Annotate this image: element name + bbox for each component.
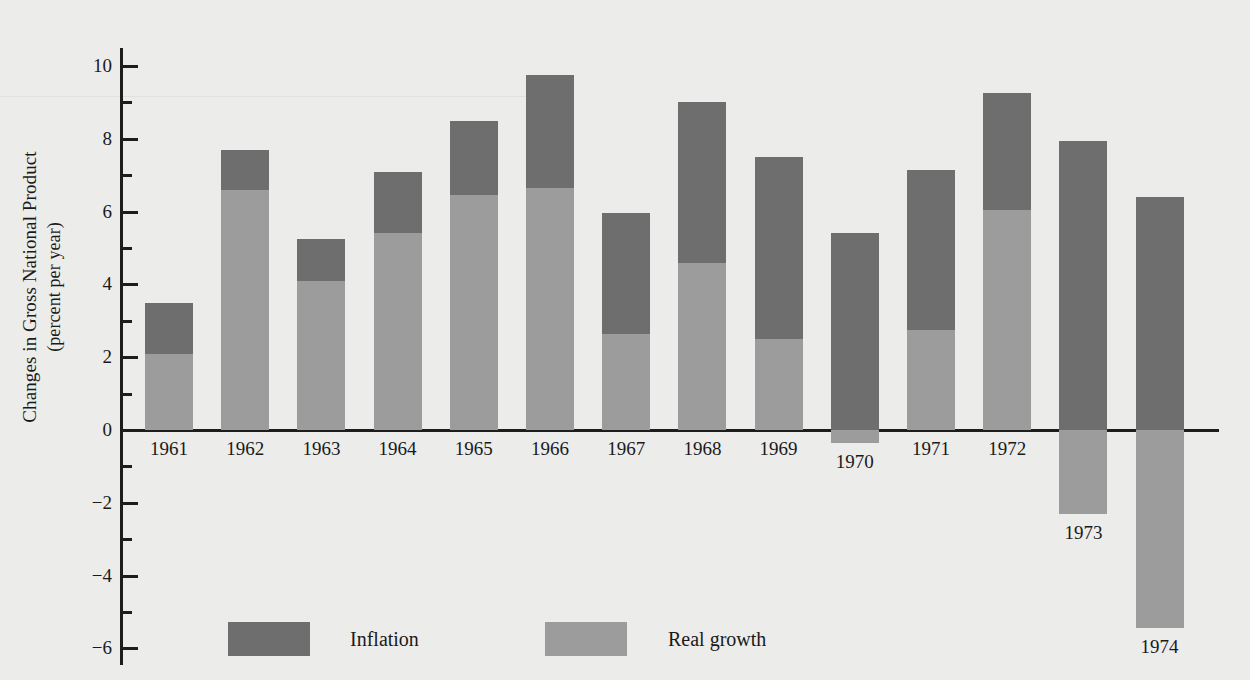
y-tick-label-wrap: −6 — [76, 638, 112, 657]
y-tick-minor — [123, 465, 132, 468]
y-tick-label: 8 — [80, 129, 112, 148]
y-tick-major — [123, 138, 138, 141]
y-tick-major — [123, 429, 138, 432]
x-axis-label-1971: 1971 — [891, 439, 971, 459]
y-tick-label-wrap: 8 — [76, 129, 112, 148]
bar-segment-inflation — [678, 102, 726, 262]
bar-1971 — [907, 0, 955, 680]
bar-segment-real-growth — [297, 281, 345, 430]
bar-segment-real-growth — [602, 334, 650, 430]
bar-segment-real-growth — [221, 190, 269, 430]
bar-1964 — [374, 0, 422, 680]
bar-1973 — [1059, 0, 1107, 680]
bar-segment-real-growth — [145, 354, 193, 430]
bar-segment-inflation — [907, 170, 955, 330]
bar-segment-real-growth — [983, 210, 1031, 430]
y-tick-minor — [123, 320, 132, 323]
y-tick-minor — [123, 101, 132, 104]
zero-baseline — [120, 429, 1219, 432]
y-tick-minor — [123, 611, 132, 614]
bar-segment-inflation — [221, 150, 269, 190]
x-axis-label-1973: 1973 — [1043, 523, 1123, 543]
y-tick-minor — [123, 538, 132, 541]
y-tick-major — [123, 647, 138, 650]
legend-swatch-inflation — [228, 622, 310, 656]
legend-label-real-growth: Real growth — [668, 628, 766, 650]
y-tick-label-wrap: 10 — [76, 56, 112, 75]
y-tick-label-wrap: 6 — [76, 202, 112, 221]
bar-1968 — [678, 0, 726, 680]
bar-1969 — [755, 0, 803, 680]
bar-segment-inflation — [602, 213, 650, 333]
x-axis-label-1964: 1964 — [358, 439, 438, 459]
y-tick-minor — [123, 247, 132, 250]
bar-segment-inflation — [1136, 197, 1184, 430]
x-axis-label-1972: 1972 — [967, 439, 1047, 459]
bar-segment-real-growth — [1136, 430, 1184, 628]
bar-segment-real-growth — [755, 339, 803, 430]
bar-segment-real-growth — [450, 195, 498, 430]
y-tick-major — [123, 65, 138, 68]
x-axis-label-1966: 1966 — [510, 439, 590, 459]
y-tick-label-wrap: −2 — [76, 493, 112, 512]
y-tick-label: −4 — [80, 566, 112, 585]
bar-1965 — [450, 0, 498, 680]
bar-1963 — [297, 0, 345, 680]
bar-1967 — [602, 0, 650, 680]
plot-area: 1086420−2−4−6 19611962196319641965196619… — [0, 0, 1250, 680]
y-tick-label: 0 — [80, 420, 112, 439]
bar-1966 — [526, 0, 574, 680]
x-axis-label-1963: 1963 — [281, 439, 361, 459]
legend-swatch-real-growth — [545, 622, 627, 656]
bar-1961 — [145, 0, 193, 680]
y-tick-label: 4 — [80, 274, 112, 293]
y-tick-label: 6 — [80, 202, 112, 221]
bar-segment-inflation — [1059, 141, 1107, 430]
x-axis-label-1970: 1970 — [815, 452, 895, 472]
bar-segment-real-growth — [526, 188, 574, 430]
bar-segment-real-growth — [1059, 430, 1107, 514]
x-axis-label-1961: 1961 — [129, 439, 209, 459]
y-tick-major — [123, 283, 138, 286]
x-axis-label-1962: 1962 — [205, 439, 285, 459]
bar-segment-inflation — [526, 75, 574, 188]
y-tick-minor — [123, 393, 132, 396]
y-tick-label-wrap: 2 — [76, 347, 112, 366]
y-tick-label: 10 — [80, 56, 112, 75]
bar-segment-inflation — [450, 121, 498, 196]
x-axis-label-1967: 1967 — [586, 439, 666, 459]
y-tick-label: −2 — [80, 493, 112, 512]
bar-segment-inflation — [374, 172, 422, 234]
x-axis-label-1965: 1965 — [434, 439, 514, 459]
chart-canvas: Changes in Gross National Product (perce… — [0, 0, 1250, 680]
y-tick-label-wrap: 4 — [76, 274, 112, 293]
legend-label-inflation: Inflation — [350, 628, 419, 650]
y-tick-label-wrap: −4 — [76, 566, 112, 585]
bar-1962 — [221, 0, 269, 680]
y-tick-major — [123, 211, 138, 214]
bar-segment-inflation — [983, 93, 1031, 209]
x-axis-label-1968: 1968 — [662, 439, 742, 459]
y-tick-major — [123, 356, 138, 359]
bar-segment-real-growth — [907, 330, 955, 430]
bar-segment-real-growth — [374, 233, 422, 430]
bar-segment-inflation — [755, 157, 803, 339]
y-tick-minor — [123, 174, 132, 177]
bar-segment-inflation — [145, 303, 193, 354]
bar-1974 — [1136, 0, 1184, 680]
x-axis-label-1969: 1969 — [739, 439, 819, 459]
bar-1970 — [831, 0, 879, 680]
bar-1972 — [983, 0, 1031, 680]
y-tick-label: −6 — [80, 638, 112, 657]
bar-segment-real-growth — [831, 430, 879, 443]
y-tick-label: 2 — [80, 347, 112, 366]
y-tick-major — [123, 502, 138, 505]
bar-segment-inflation — [831, 233, 879, 430]
bar-segment-real-growth — [678, 263, 726, 430]
bar-segment-inflation — [297, 239, 345, 281]
x-axis-label-1974: 1974 — [1120, 637, 1200, 657]
y-tick-major — [123, 575, 138, 578]
y-tick-label-wrap: 0 — [76, 420, 112, 439]
